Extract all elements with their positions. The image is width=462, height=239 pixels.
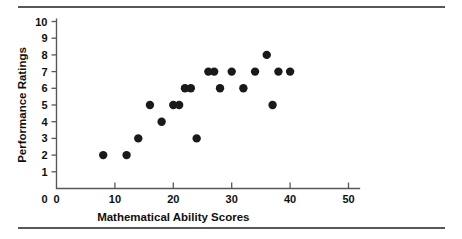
y-axis-title: Performance Ratings [16,47,28,163]
data-point [157,118,165,126]
y-tick-label: 8 [41,49,47,61]
data-point [99,151,107,159]
data-points [99,51,294,160]
data-point [268,101,276,109]
y-tick-label: 1 [41,166,47,178]
y-tick-label: 9 [41,32,47,44]
data-point [175,101,183,109]
y-tick-label: 7 [41,66,47,78]
data-point [192,134,200,142]
y-zero-label: 0 [41,193,47,205]
data-point [251,67,259,75]
data-point [134,134,142,142]
axis-spine [57,19,361,189]
data-point [216,84,224,92]
figure-container: 123456789100 01020304050 Mathematical Ab… [0,0,462,239]
y-tick-label: 10 [35,16,47,28]
data-point [228,67,236,75]
axis-lines [57,19,361,189]
data-point [263,51,271,59]
data-point [286,67,294,75]
scatter-plot: 123456789100 01020304050 Mathematical Ab… [0,0,462,239]
data-point [239,84,247,92]
x-tick-label: 0 [53,193,59,205]
y-tick-label: 2 [41,149,47,161]
y-tick-label: 5 [41,99,47,111]
data-point [274,67,282,75]
x-axis: 01020304050 [53,183,354,205]
data-point [122,151,130,159]
y-tick-label: 6 [41,82,47,94]
data-point [187,84,195,92]
x-tick-label: 40 [284,193,296,205]
chart-svg: 123456789100 01020304050 Mathematical Ab… [0,0,462,239]
x-tick-label: 30 [226,193,238,205]
x-axis-title: Mathematical Ability Scores [97,211,249,223]
y-axis: 123456789100 [35,16,56,205]
x-tick-label: 50 [342,193,354,205]
data-point [210,67,218,75]
y-tick-label: 3 [41,132,47,144]
x-tick-label: 10 [109,193,121,205]
data-point [146,101,154,109]
y-tick-label: 4 [41,116,48,128]
x-tick-label: 20 [167,193,179,205]
